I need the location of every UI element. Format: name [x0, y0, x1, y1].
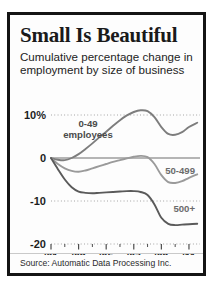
chart-card-inner: Small Is Beautiful Cumulative percentage… — [10, 15, 203, 273]
chart-card: Small Is Beautiful Cumulative percentage… — [7, 12, 206, 276]
label-500-plus: 500+ — [173, 203, 195, 214]
label-50-499: 50-499 — [165, 165, 195, 176]
x-tick-marks — [51, 244, 189, 250]
source-divider — [10, 253, 203, 254]
y-tick-label-2: -10 — [30, 195, 46, 207]
line-chart-svg: 10%0-10-20 '01'03'05'07'09'11 0-49employ… — [10, 77, 203, 255]
series-annotations: 0-49employees50-499500+ — [63, 118, 195, 214]
source-note: Source: Automatic Data Processing Inc. — [20, 258, 171, 268]
y-tick-label-1: 0 — [40, 152, 46, 164]
page-title: Small Is Beautiful — [20, 24, 200, 46]
chart-plot-area: 10%0-10-20 '01'03'05'07'09'11 0-49employ… — [10, 77, 203, 255]
y-tick-label-3: -20 — [30, 238, 46, 250]
chart-subtitle: Cumulative percentage change in employme… — [20, 50, 202, 77]
label-0-49-line2: employees — [63, 129, 113, 140]
label-0-49: 0-49 — [78, 118, 97, 129]
y-axis-labels: 10%0-10-20 — [24, 109, 46, 250]
y-tick-label-0: 10% — [24, 109, 46, 121]
